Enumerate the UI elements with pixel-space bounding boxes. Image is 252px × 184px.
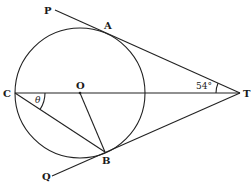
label-q: Q bbox=[42, 171, 51, 182]
angle-label-theta: θ bbox=[35, 95, 41, 105]
angle-arc-t bbox=[216, 83, 218, 93]
label-t: T bbox=[243, 88, 251, 99]
label-b: B bbox=[102, 155, 110, 166]
diagram-canvas: P A C O T B Q 54° θ bbox=[0, 0, 252, 184]
tangent-line-qt bbox=[52, 93, 240, 176]
chord-cb bbox=[15, 93, 105, 152]
geometry-diagram: P A C O T B Q 54° θ bbox=[0, 0, 252, 184]
label-o: O bbox=[76, 80, 85, 91]
label-p: P bbox=[44, 5, 52, 16]
center-point bbox=[79, 92, 82, 95]
angle-label-t: 54° bbox=[196, 81, 212, 91]
label-c: C bbox=[3, 88, 11, 99]
angle-arc-c bbox=[40, 93, 45, 109]
label-a: A bbox=[103, 20, 112, 31]
